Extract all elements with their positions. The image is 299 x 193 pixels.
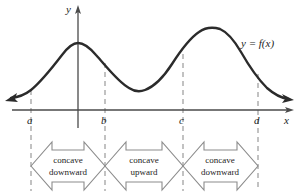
band-cd-label-line1: concave (205, 155, 234, 165)
band-bc-label-line1: concave (129, 155, 158, 165)
tick-label-c: c (179, 114, 184, 126)
band-ab-label-line1: concave (53, 155, 82, 165)
double-arrow-shape-ab (31, 142, 105, 190)
concavity-band-cd: concave downward (183, 142, 258, 190)
band-ab-label-line2: downward (49, 167, 87, 177)
y-axis-label: y (65, 3, 71, 15)
function-label: y = f(x) (240, 37, 274, 50)
concavity-figure: y x a b c d y = f(x) concave downward co… (0, 0, 299, 193)
tick-label-d: d (254, 114, 260, 126)
band-bc-label-line2: upward (131, 167, 158, 177)
tick-label-b: b (101, 114, 107, 126)
double-arrow-shape-bc (105, 142, 183, 190)
concavity-band-bc: concave upward (105, 142, 183, 190)
double-arrow-shape-cd (183, 142, 258, 190)
tick-label-a: a (27, 114, 33, 126)
band-cd-label-line2: downward (201, 167, 239, 177)
concavity-band-ab: concave downward (31, 142, 105, 190)
x-axis-label: x (283, 114, 289, 126)
